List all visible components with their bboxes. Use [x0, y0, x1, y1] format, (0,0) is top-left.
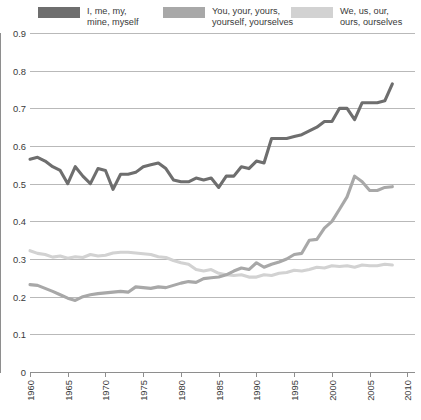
legend-swatch-we-us-our — [291, 7, 333, 18]
series-lines — [30, 33, 415, 372]
x-axis-tick-label: 2005 — [365, 380, 376, 401]
x-axis-tick-mark — [68, 372, 69, 377]
y-axis-tick-label: 0.2 — [0, 297, 26, 308]
chart-legend: I, me, my, mine, myself You, your, yours… — [0, 0, 421, 30]
legend-item-i-me-my: I, me, my, mine, myself — [38, 6, 139, 27]
legend-swatch-you-your-yours — [163, 7, 205, 18]
y-axis-tick-label: 0.4 — [0, 221, 26, 232]
x-axis-tick-label: 1995 — [289, 380, 300, 401]
x-axis-tick-label: 1990 — [251, 380, 262, 401]
y-axis-tick-label: 0.5 — [0, 184, 26, 195]
x-axis-line — [30, 372, 415, 373]
x-axis-tick-mark — [407, 372, 408, 377]
y-axis-tick-label: 0.8 — [0, 71, 26, 82]
x-axis-tick-label: 1965 — [63, 380, 74, 401]
x-axis-tick-mark — [105, 372, 106, 377]
y-axis-tick-label: 0.7 — [0, 108, 26, 119]
line-chart: I, me, my, mine, myself You, your, yours… — [0, 0, 421, 420]
legend-item-we-us-our: We, us, our, ours, ourselves — [291, 6, 402, 27]
x-axis-tick-mark — [294, 372, 295, 377]
x-axis-tick-mark — [30, 372, 31, 377]
x-axis-tick-mark — [332, 372, 333, 377]
y-axis-labels: 00.10.20.30.40.50.60.70.80.9 — [0, 33, 26, 373]
x-axis-tick-label: 1975 — [138, 380, 149, 401]
y-axis-tick-label: 0 — [0, 372, 26, 383]
x-axis-tick-mark — [181, 372, 182, 377]
y-axis-tick-label: 0.9 — [0, 33, 26, 44]
x-axis-tick-mark — [143, 372, 144, 377]
series-line — [30, 251, 392, 277]
x-axis-tick-label: 1985 — [214, 380, 225, 401]
x-axis-tick-mark — [256, 372, 257, 377]
plot-area — [30, 33, 415, 372]
x-axis-tick-label: 2000 — [327, 380, 338, 401]
x-axis-tick-label: 2010 — [402, 380, 413, 401]
x-axis-tick-label: 1970 — [100, 380, 111, 401]
legend-item-you-your-yours: You, your, yours, yourself, yourselves — [163, 6, 293, 27]
x-axis-tick-mark — [219, 372, 220, 377]
legend-label-you-your-yours: You, your, yours, yourself, yourselves — [212, 6, 293, 27]
series-line — [30, 84, 392, 189]
x-axis-tick-label: 1980 — [176, 380, 187, 401]
y-axis-tick-label: 0.6 — [0, 146, 26, 157]
x-axis-tick-label: 1960 — [25, 380, 36, 401]
series-line — [30, 176, 392, 300]
legend-label-we-us-our: We, us, our, ours, ourselves — [340, 6, 402, 27]
legend-label-i-me-my: I, me, my, mine, myself — [87, 6, 139, 27]
x-axis-tick-mark — [370, 372, 371, 377]
legend-swatch-i-me-my — [38, 7, 80, 18]
y-axis-tick-label: 0.1 — [0, 334, 26, 345]
y-axis-line — [0, 33, 1, 373]
y-axis-tick-label: 0.3 — [0, 259, 26, 270]
